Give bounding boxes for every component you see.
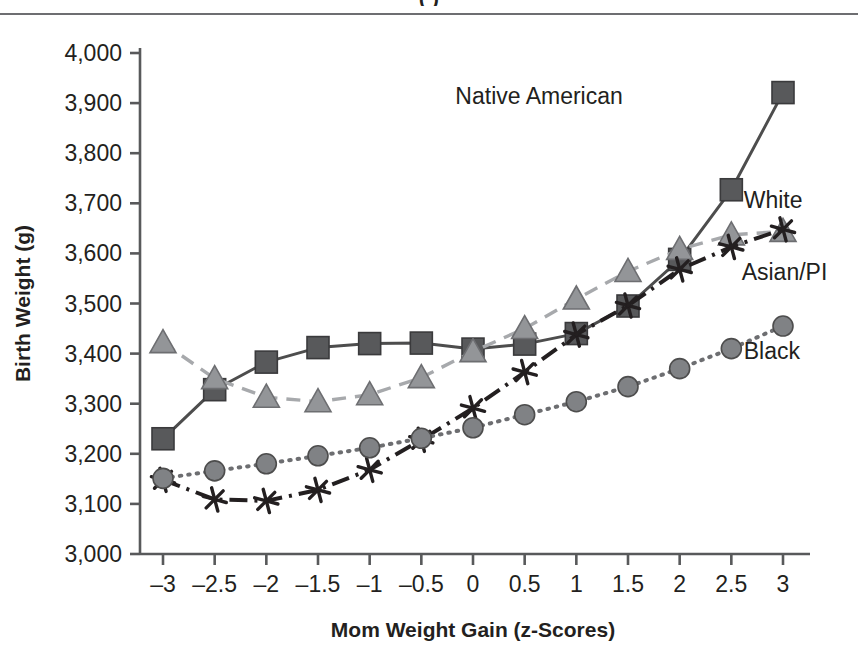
series-white bbox=[150, 218, 796, 411]
x-tick-label: 3 bbox=[777, 571, 790, 597]
x-tick-label: 0 bbox=[467, 571, 480, 597]
marker-triangle bbox=[150, 330, 176, 353]
y-tick-label: 4,000 bbox=[64, 40, 122, 66]
marker-triangle bbox=[253, 384, 279, 407]
y-tick-label: 3,700 bbox=[64, 190, 122, 216]
marker-asterisk bbox=[203, 488, 226, 511]
marker-asterisk bbox=[358, 458, 381, 481]
marker-triangle bbox=[305, 389, 331, 412]
x-axis-title: Mom Weight Gain (z-Scores) bbox=[331, 618, 615, 641]
marker-square bbox=[359, 333, 381, 355]
marker-asterisk bbox=[461, 397, 484, 420]
y-tick-label: 3,800 bbox=[64, 140, 122, 166]
x-tick-label: –1 bbox=[357, 571, 383, 597]
marker-circle bbox=[205, 461, 225, 481]
x-tick-label: 2.5 bbox=[715, 571, 747, 597]
y-tick-label: 3,500 bbox=[64, 291, 122, 317]
marker-circle bbox=[463, 418, 483, 438]
marker-circle bbox=[153, 468, 173, 488]
axes-group: 3,0003,1003,2003,3003,4003,5003,6003,700… bbox=[64, 40, 810, 597]
marker-circle bbox=[515, 405, 535, 425]
series-label-white: White bbox=[744, 187, 803, 213]
marker-square bbox=[152, 428, 174, 450]
x-tick-label: 1 bbox=[570, 571, 583, 597]
y-tick-label: 3,200 bbox=[64, 441, 122, 467]
y-tick-label: 3,300 bbox=[64, 391, 122, 417]
marker-square bbox=[772, 82, 794, 104]
marker-circle bbox=[566, 392, 586, 412]
y-axis-title: Birth Weight (g) bbox=[11, 225, 34, 382]
marker-triangle bbox=[202, 366, 228, 389]
marker-circle bbox=[411, 428, 431, 448]
series-label-black: Black bbox=[744, 338, 801, 364]
marker-triangle bbox=[512, 316, 538, 339]
birth-weight-line-chart: 3,0003,1003,2003,3003,4003,5003,6003,700… bbox=[0, 0, 858, 655]
x-tick-label: –0.5 bbox=[399, 571, 444, 597]
y-tick-label: 3,100 bbox=[64, 491, 122, 517]
marker-circle bbox=[256, 454, 276, 474]
x-tick-label: –3 bbox=[150, 571, 176, 597]
marker-circle bbox=[721, 339, 741, 359]
series-label-asian-pi: Asian/PI bbox=[742, 259, 828, 285]
marker-triangle bbox=[615, 258, 641, 281]
marker-square bbox=[410, 332, 432, 354]
x-tick-label: –1.5 bbox=[296, 571, 341, 597]
marker-square bbox=[255, 351, 277, 373]
x-tick-label: 0.5 bbox=[509, 571, 541, 597]
x-tick-label: –2 bbox=[254, 571, 280, 597]
marker-square bbox=[720, 179, 742, 201]
marker-circle bbox=[360, 438, 380, 458]
series-label-native-american: Native American bbox=[455, 83, 622, 109]
asterisk-ray bbox=[473, 400, 482, 409]
x-tick-label: 1.5 bbox=[612, 571, 644, 597]
marker-circle bbox=[618, 377, 638, 397]
marker-circle bbox=[670, 359, 690, 379]
chart-page: ( ) 3,0003,1003,2003,3003,4003,5003,6003… bbox=[0, 0, 858, 655]
y-tick-label: 3,400 bbox=[64, 341, 122, 367]
marker-square bbox=[307, 337, 329, 359]
y-tick-label: 3,900 bbox=[64, 90, 122, 116]
series-native-american bbox=[152, 82, 794, 450]
marker-circle bbox=[308, 446, 328, 466]
y-tick-label: 3,000 bbox=[64, 541, 122, 567]
marker-triangle bbox=[408, 365, 434, 388]
y-tick-label: 3,600 bbox=[64, 240, 122, 266]
marker-asterisk bbox=[513, 361, 536, 384]
marker-triangle bbox=[563, 286, 589, 309]
x-tick-label: –2.5 bbox=[192, 571, 237, 597]
x-tick-label: 2 bbox=[673, 571, 686, 597]
marker-circle bbox=[773, 316, 793, 336]
